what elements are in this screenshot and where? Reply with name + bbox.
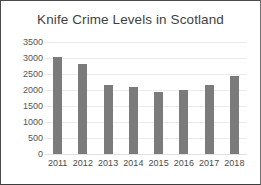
y-axis-tick-label: 500 <box>3 133 43 143</box>
y-axis-tick-label: 1000 <box>3 117 43 127</box>
x-axis-tick-label: 2015 <box>149 158 169 168</box>
bar <box>179 90 188 154</box>
chart-title: Knife Crime Levels in Scotland <box>1 12 260 27</box>
bar <box>53 57 62 154</box>
y-axis-tick-label: 1500 <box>3 101 43 111</box>
x-axis-tick-label: 2014 <box>123 158 143 168</box>
gridline <box>45 154 247 155</box>
chart-figure: Knife Crime Levels in Scotland 050010001… <box>0 0 261 185</box>
plot-area <box>45 42 247 154</box>
bar <box>205 85 214 154</box>
bar <box>78 64 87 154</box>
x-axis-tick-label: 2011 <box>48 158 67 168</box>
y-axis-tick-label: 2000 <box>3 85 43 95</box>
y-axis: 0500100015002000250030003500 <box>3 42 43 154</box>
y-axis-tick-label: 3500 <box>3 37 43 47</box>
y-axis-tick-label: 0 <box>3 149 43 159</box>
y-axis-tick-label: 2500 <box>3 69 43 79</box>
x-axis-tick-label: 2017 <box>199 158 219 168</box>
x-axis-tick-label: 2016 <box>174 158 194 168</box>
x-axis-tick-label: 2018 <box>224 158 244 168</box>
bar <box>230 76 239 154</box>
y-axis-tick-label: 3000 <box>3 53 43 63</box>
x-axis-tick-label: 2013 <box>98 158 118 168</box>
bar <box>104 85 113 154</box>
bar <box>129 87 138 154</box>
x-axis: 20112012201320142015201620172018 <box>45 158 247 172</box>
bar-series <box>45 42 247 154</box>
x-axis-tick-label: 2012 <box>73 158 93 168</box>
bar <box>154 92 163 154</box>
